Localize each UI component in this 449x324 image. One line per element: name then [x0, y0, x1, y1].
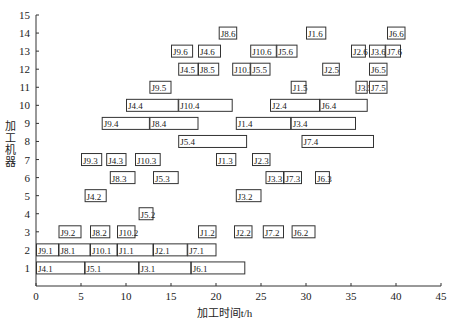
x-tick-label: 10	[121, 290, 133, 302]
x-tick-label: 15	[166, 290, 178, 302]
gantt-bar: J7.2	[263, 226, 283, 238]
bar-label: J9.5	[151, 83, 166, 93]
bar-label: J6.1	[193, 264, 208, 274]
gantt-bar: J6.6	[388, 27, 406, 39]
gantt-bar: J9.5	[150, 81, 171, 93]
bar-label: J7.2	[265, 228, 280, 238]
bar-label: J8.4	[151, 119, 166, 129]
bar-label: J8.6	[221, 29, 236, 39]
bar-label: J1.2	[200, 228, 215, 238]
gantt-bar: J6.5	[370, 63, 388, 75]
gantt-bar: J4.4	[127, 99, 179, 111]
x-tick-label: 25	[256, 290, 268, 302]
gantt-bar: J9.6	[172, 45, 193, 57]
bar-label: J4.3	[108, 156, 123, 166]
gantt-bar: J4.6	[199, 45, 221, 57]
gantt-bar: J8.3	[110, 172, 135, 184]
bar-label: J9.1	[38, 246, 53, 256]
gantt-bar: J7.6	[386, 45, 403, 57]
bar-label: J7.5	[371, 83, 386, 93]
x-tick-label: 35	[346, 290, 358, 302]
bar-label: J3.2	[238, 192, 253, 202]
gantt-bar: J1.6	[307, 27, 326, 39]
bar-label: J4.1	[38, 264, 53, 274]
y-tick-label: 3	[25, 226, 31, 238]
gantt-bar: J1.1	[118, 244, 154, 256]
gantt-bar: J7.5	[370, 81, 388, 93]
y-tick-label: 13	[19, 45, 31, 57]
gantt-bar: J9.2	[59, 226, 81, 238]
gantt-bar: J8.6	[219, 27, 237, 39]
bar-label: J7.1	[189, 246, 204, 256]
bar-label: J5.1	[87, 264, 102, 274]
bars: J4.1J5.1J3.1J6.1J9.1J8.1J10.1J1.1J2.1J7.…	[37, 27, 406, 274]
gantt-bar: J2.2	[235, 226, 253, 238]
bar-label: J10.6	[252, 47, 272, 57]
bar-label: J2.2	[236, 228, 251, 238]
gantt-bar: J2.6	[352, 45, 369, 57]
gantt-bar: J6.3	[316, 172, 333, 184]
y-tick-label: 2	[25, 244, 31, 256]
bar-label: J2.3	[254, 156, 269, 166]
y-tick-label: 7	[25, 154, 31, 166]
x-axis-label: 加工时间t/h	[0, 304, 449, 320]
gantt-bar: J1.5	[291, 81, 308, 93]
x-tick-label: 40	[391, 290, 403, 302]
gantt-bar: J10.6	[251, 45, 277, 57]
bar-label: J1.4	[238, 119, 253, 129]
gantt-bar: J4.3	[107, 154, 126, 166]
gantt-bar: J3.1	[139, 262, 191, 274]
gantt-bar: J5.3	[154, 172, 179, 184]
gantt-bar: J5.1	[85, 262, 139, 274]
gantt-bar: J5.4	[179, 135, 247, 147]
gantt-bar: J1.3	[217, 154, 236, 166]
y-tick-label: 14	[19, 27, 31, 39]
bar-label: J8.2	[92, 228, 107, 238]
bar-label: J2.1	[155, 246, 170, 256]
bar-label: J5.3	[155, 174, 170, 184]
bar-label: J5.6	[278, 47, 293, 57]
x-tick-label: 20	[211, 290, 223, 302]
gantt-bar: J8.4	[150, 117, 198, 129]
bar-label: J3.3	[268, 174, 283, 184]
gantt-bar: J5.5	[251, 63, 270, 75]
x-tick-label: 0	[33, 290, 39, 302]
x-tick-label: 30	[301, 290, 313, 302]
gantt-bar: J4.2	[85, 190, 106, 202]
gantt-bar: J1.4	[236, 117, 290, 129]
bar-label: J7.4	[304, 137, 319, 147]
bar-label: J8.5	[200, 65, 215, 75]
gantt-bar: J6.4	[320, 99, 367, 111]
y-tick-label: 11	[19, 81, 30, 93]
bar-label: J4.4	[128, 101, 143, 111]
y-tick-label: 4	[25, 208, 31, 220]
bar-label: J3.4	[293, 119, 308, 129]
bar-label: J10.2	[119, 228, 138, 238]
bar-label: J5.5	[252, 65, 267, 75]
y-axis-label: 加工机器	[2, 120, 18, 168]
y-tick-label: 5	[25, 190, 31, 202]
bar-label: J1.1	[119, 246, 134, 256]
gantt-bar: J8.5	[199, 63, 219, 75]
gantt-bar: J2.5	[323, 63, 340, 75]
y-tick-label: 1	[25, 262, 31, 274]
gantt-bar: J5.2	[139, 208, 155, 220]
y-tick-label: 9	[25, 117, 31, 129]
bar-label: J9.4	[104, 119, 119, 129]
gantt-bar: J9.4	[102, 117, 149, 129]
y-tick-label: 6	[25, 172, 31, 184]
gantt-bar: J3.4	[291, 117, 355, 129]
bar-label: J1.3	[218, 156, 233, 166]
gantt-bar: J7.3	[284, 172, 302, 184]
gantt-bar: J7.4	[302, 135, 374, 147]
bar-label: J6.3	[317, 174, 332, 184]
bar-label: J9.2	[61, 228, 76, 238]
bar-label: J2.5	[324, 65, 339, 75]
bar-label: J6.6	[389, 29, 404, 39]
bar-label: J4.5	[180, 65, 195, 75]
bar-label: J7.6	[387, 47, 402, 57]
bar-label: J8.1	[61, 246, 76, 256]
bar-label: J3.6	[371, 47, 386, 57]
bar-label: J8.3	[112, 174, 127, 184]
gantt-bar: J9.1	[37, 244, 59, 256]
